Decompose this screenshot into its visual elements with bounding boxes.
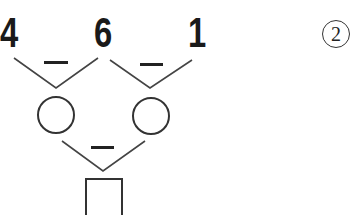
answer-circle-left[interactable] (38, 97, 74, 133)
subtraction-tree-diagram (0, 0, 358, 215)
answer-square-result[interactable] (86, 179, 122, 215)
answer-circle-right[interactable] (133, 98, 169, 134)
branch-lines-bottom (62, 141, 145, 171)
minus-sign-top-left (44, 61, 68, 64)
minus-sign-top-right (140, 63, 163, 66)
minus-sign-bottom (91, 146, 114, 149)
